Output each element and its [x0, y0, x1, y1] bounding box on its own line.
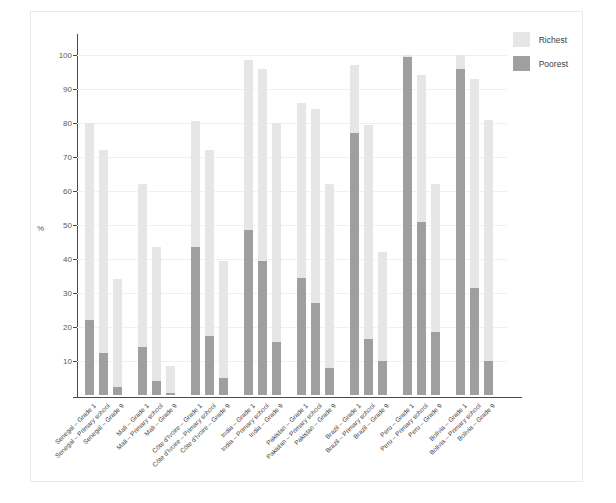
- bar-segment-poorest: [85, 320, 94, 395]
- plot-area: 102030405060708090100: [77, 38, 507, 395]
- bar-segment-poorest: [219, 378, 228, 395]
- bar-segment-poorest: [272, 342, 281, 395]
- bar-segment-richest: [325, 184, 334, 395]
- bar-segment-richest: [166, 366, 175, 395]
- bar-segment-poorest: [113, 387, 122, 396]
- y-axis-tick-label: 90: [63, 85, 72, 94]
- y-axis-tick-label: 10: [63, 357, 72, 366]
- y-axis-tick-label: 50: [63, 221, 72, 230]
- legend-item-richest[interactable]: Richest: [513, 32, 568, 47]
- bar-segment-poorest: [403, 57, 412, 395]
- legend-swatch-poorest: [513, 56, 530, 71]
- bar-segment-poorest: [152, 381, 161, 395]
- bar-series-layer: [77, 38, 507, 395]
- bar-segment-poorest: [138, 347, 147, 395]
- legend-label-poorest: Poorest: [539, 59, 568, 69]
- bar-segment-poorest: [166, 393, 175, 395]
- bar-segment-poorest: [191, 247, 200, 395]
- chart-figure: % 102030405060708090100 Senegal – Grade …: [30, 11, 583, 482]
- y-axis-tick-label: 20: [63, 323, 72, 332]
- y-axis-tick-label: 60: [63, 187, 72, 196]
- legend-item-poorest[interactable]: Poorest: [513, 56, 568, 71]
- bar-segment-richest: [219, 261, 228, 395]
- bar-segment-richest: [152, 247, 161, 395]
- bar-segment-poorest: [364, 339, 373, 395]
- bar-segment-poorest: [244, 230, 253, 395]
- x-axis-tick-label-text: Côte d'Ivoire – Primary school: [150, 402, 216, 468]
- bar-segment-poorest: [99, 353, 108, 396]
- bar-segment-poorest: [431, 332, 440, 395]
- bar-segment-poorest: [484, 361, 493, 395]
- bar-segment-poorest: [456, 69, 465, 395]
- bar-segment-poorest: [297, 278, 306, 395]
- bar-segment-poorest: [205, 336, 214, 396]
- bar-segment-richest: [113, 279, 122, 395]
- y-axis-tick-label: 30: [63, 289, 72, 298]
- legend-label-richest: Richest: [539, 35, 567, 45]
- legend-swatch-richest: [513, 32, 530, 47]
- bar-segment-poorest: [470, 288, 479, 395]
- y-axis-tick-label: 70: [63, 153, 72, 162]
- y-axis-tick-label: 40: [63, 255, 72, 264]
- x-axis-line: [73, 397, 522, 398]
- bar-segment-poorest: [311, 303, 320, 395]
- y-axis-tick-label: 100: [59, 51, 72, 60]
- bar-segment-poorest: [350, 133, 359, 395]
- x-axis-tick-labels: Senegal – Grade 1Senegal – Primary schoo…: [77, 400, 527, 495]
- bar-segment-poorest: [417, 222, 426, 395]
- chart-legend: Richest Poorest: [513, 32, 568, 71]
- bar-segment-richest: [484, 120, 493, 395]
- y-axis-title: %: [37, 224, 44, 233]
- bar-segment-poorest: [258, 261, 267, 395]
- y-axis-tick-label: 80: [63, 119, 72, 128]
- bar-segment-poorest: [325, 368, 334, 395]
- bar-segment-poorest: [378, 361, 387, 395]
